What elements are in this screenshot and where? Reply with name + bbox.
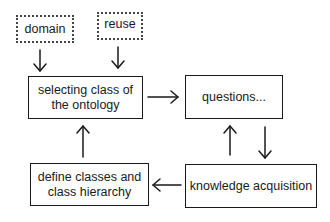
arrow-selecting-to-questions bbox=[148, 91, 178, 103]
arrow-knowledge-to-questions bbox=[224, 126, 236, 155]
arrow-knowledge-to-define bbox=[153, 179, 181, 191]
arrow-domain-to-selecting bbox=[34, 50, 46, 71]
arrow-reuse-to-selecting bbox=[112, 47, 124, 68]
arrow-questions-to-knowledge bbox=[259, 127, 271, 158]
arrow-define-to-selecting bbox=[77, 126, 89, 157]
edges-layer bbox=[0, 0, 330, 222]
